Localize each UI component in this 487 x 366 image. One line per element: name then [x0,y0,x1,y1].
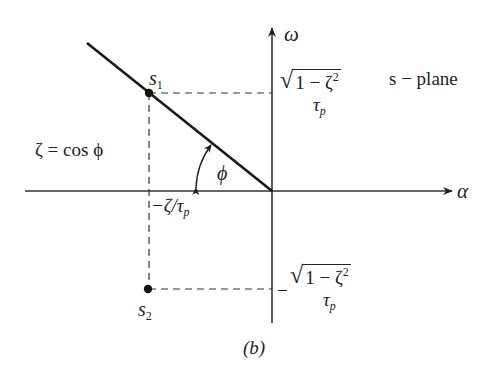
real-part-tick-label: −ζ/τp [151,196,190,218]
s1-label: s1 [149,68,163,91]
imag-lower-sign: − [277,281,288,300]
imag-upper-tick-label: √ 1 − ζ2 τp [280,68,341,119]
damping-relation: ζ = cos ϕ [35,140,103,159]
s-plane-diagram [0,0,487,366]
s2-label-sub: 2 [146,309,152,323]
angle-phi-arc [196,145,211,188]
omega-axis-label: ω [284,24,299,45]
damping-ray [87,43,272,191]
figure-caption: (b) [243,338,265,357]
pole-s2 [144,285,152,293]
s1-label-main: s [149,67,157,89]
alpha-axis-label: α [457,181,468,202]
caption-text: (b) [243,337,265,358]
denominator: τp [308,287,351,314]
real-part-tick-sub: p [184,205,190,219]
real-part-tick-main: −ζ/τ [151,195,184,216]
s-plane-label: s − plane [389,69,458,88]
s2-label-main: s [138,298,146,320]
s2-label: s2 [138,299,152,322]
angle-phi-label: ϕ [217,163,227,183]
exponent: 2 [333,70,339,84]
radicand: 1 − ζ [305,267,343,288]
s1-label-sub: 1 [157,78,163,92]
exponent: 2 [343,265,349,279]
denominator: τp [298,92,341,119]
radicand: 1 − ζ [295,72,333,93]
imag-lower-tick-label: √ 1 − ζ2 τp [290,263,351,314]
